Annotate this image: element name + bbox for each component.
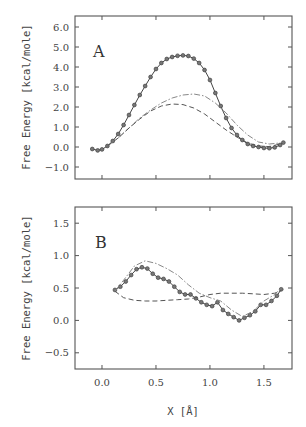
panel-b-ylabel: Free Energy [kcal/mole]: [20, 215, 32, 360]
data-point-marker: [270, 299, 274, 303]
data-point-marker: [237, 319, 241, 323]
data-point-marker: [232, 315, 236, 319]
series-dashed: [107, 104, 280, 147]
data-point-marker: [165, 57, 169, 61]
data-point-marker: [235, 133, 239, 137]
data-point-marker: [199, 300, 203, 304]
data-point-marker: [230, 126, 234, 130]
data-point-marker: [132, 103, 136, 107]
x-tick-label: 0.0: [94, 377, 110, 388]
data-point-marker: [213, 91, 217, 95]
data-point-marker: [178, 290, 182, 294]
x-tick-label: 1.0: [202, 377, 218, 388]
y-tick-label: 4.0: [53, 62, 69, 73]
data-point-marker: [100, 148, 104, 152]
series-solid-with-circles: [92, 55, 283, 150]
y-tick-label: 1.0: [53, 250, 69, 261]
data-point-marker: [275, 294, 279, 298]
data-point-marker: [140, 265, 144, 269]
y-tick-label: −1.0: [45, 162, 69, 173]
y-tick-label: 6.0: [53, 22, 69, 33]
data-point-marker: [154, 67, 158, 71]
data-point-marker: [192, 57, 196, 61]
series-dash-dot: [107, 94, 280, 146]
data-point-marker: [145, 267, 149, 271]
x-axis-label: X [Å]: [167, 405, 199, 417]
data-point-marker: [118, 285, 122, 289]
data-point-marker: [219, 104, 223, 108]
panel-a-ylabel: Free Energy [kcal/mole]: [20, 24, 32, 169]
y-tick-label: 5.0: [53, 42, 69, 53]
panel-a-letter: A: [92, 42, 105, 61]
y-tick-label: 1.5: [53, 218, 69, 229]
data-point-marker: [176, 54, 180, 58]
data-point-marker: [167, 280, 171, 284]
y-tick-label: 0.0: [53, 142, 69, 153]
data-point-marker: [129, 273, 133, 277]
data-point-marker: [264, 303, 268, 307]
data-point-marker: [96, 149, 100, 153]
plot-frame: [75, 207, 292, 369]
data-point-marker: [226, 312, 230, 316]
data-point-marker: [172, 285, 176, 289]
data-point-marker: [189, 293, 193, 297]
y-tick-label: 0.5: [53, 283, 69, 294]
y-tick-label: 3.0: [53, 82, 69, 93]
data-point-marker: [170, 55, 174, 59]
y-tick-label: 2.0: [53, 102, 69, 113]
data-point-marker: [186, 54, 190, 58]
data-point-marker: [90, 147, 94, 151]
data-point-marker: [122, 123, 126, 127]
data-point-marker: [162, 277, 166, 281]
series-dash-dot: [115, 261, 281, 317]
data-point-marker: [159, 61, 163, 65]
y-tick-label: 1.0: [53, 122, 69, 133]
data-point-marker: [224, 116, 228, 120]
data-point-marker: [124, 280, 128, 284]
data-point-marker: [116, 132, 120, 136]
x-tick-label: 0.5: [148, 377, 164, 388]
data-point-marker: [210, 304, 214, 308]
data-point-marker: [205, 303, 209, 307]
data-point-marker: [149, 75, 153, 79]
data-point-marker: [138, 93, 142, 97]
data-point-marker: [127, 113, 131, 117]
data-point-marker: [281, 141, 285, 145]
data-point-marker: [183, 293, 187, 297]
data-point-marker: [253, 309, 257, 313]
free-energy-figure: −1.00.01.02.03.04.05.06.0 0.00.51.01.5−0…: [0, 0, 306, 427]
x-tick-label: 1.5: [256, 377, 272, 388]
data-point-marker: [135, 267, 139, 271]
data-point-marker: [181, 54, 185, 58]
panel-b-plot: 0.00.51.01.5−0.50.00.51.01.5: [45, 207, 292, 388]
data-point-marker: [197, 61, 201, 65]
data-point-marker: [143, 84, 147, 88]
panel-a-plot: −1.00.01.02.03.04.05.06.0: [45, 16, 292, 179]
data-point-marker: [203, 68, 207, 72]
data-point-marker: [221, 308, 225, 312]
y-tick-label: −0.5: [45, 347, 69, 358]
y-tick-label: 0.0: [53, 315, 69, 326]
data-point-marker: [273, 146, 277, 150]
plot-frame: [75, 16, 292, 179]
data-point-marker: [156, 276, 160, 280]
data-point-marker: [208, 78, 212, 82]
panel-b-letter: B: [95, 233, 107, 252]
data-point-marker: [151, 272, 155, 276]
